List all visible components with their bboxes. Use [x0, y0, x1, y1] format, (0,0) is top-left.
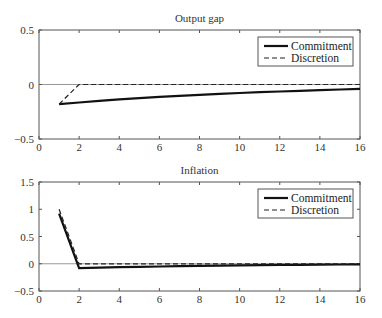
x-tick-label: 2 [76, 141, 82, 153]
legend-commitment-label: Commitment [291, 40, 353, 52]
commitment-line [59, 89, 360, 104]
x-tick-label: 8 [197, 293, 203, 305]
x-tick-label: 10 [234, 141, 246, 153]
legend-commitment-label: Commitment [291, 192, 353, 204]
x-tick-label: 14 [314, 293, 326, 305]
y-tick-label: 1.5 [20, 176, 34, 188]
x-tick-label: 0 [36, 141, 42, 153]
x-tick-label: 14 [314, 141, 326, 153]
legend: CommitmentDiscretion [258, 37, 353, 66]
y-tick-label: 1 [29, 203, 35, 215]
legend-discretion-label: Discretion [291, 52, 339, 64]
y-tick-label: 0 [29, 79, 35, 91]
x-tick-label: 0 [36, 293, 42, 305]
x-tick-label: 12 [274, 141, 285, 153]
chart-title: Output gap [175, 12, 225, 24]
x-tick-label: 6 [157, 293, 163, 305]
x-tick-label: 12 [274, 293, 285, 305]
chart-title: Inflation [181, 164, 219, 176]
output-gap-panel: Output gap0246810121416−0.500.5Commitmen… [14, 12, 366, 153]
y-tick-label: 0 [29, 258, 35, 270]
x-tick-label: 16 [355, 141, 367, 153]
x-tick-label: 4 [117, 293, 123, 305]
y-tick-label: −0.5 [14, 133, 34, 145]
legend-discretion-label: Discretion [291, 204, 339, 216]
inflation-panel: Inflation0246810121416−0.500.511.5Commit… [14, 164, 366, 305]
x-tick-label: 4 [117, 141, 123, 153]
x-tick-label: 10 [234, 293, 246, 305]
commitment-line [59, 214, 360, 269]
x-tick-label: 8 [197, 141, 203, 153]
figure: Output gap0246810121416−0.500.5Commitmen… [0, 0, 382, 318]
x-tick-label: 6 [157, 141, 163, 153]
x-tick-label: 16 [355, 293, 367, 305]
x-tick-label: 2 [76, 293, 82, 305]
y-tick-label: 0.5 [20, 24, 34, 36]
legend: CommitmentDiscretion [258, 189, 353, 218]
y-tick-label: −0.5 [14, 285, 34, 297]
y-tick-label: 0.5 [20, 231, 34, 243]
